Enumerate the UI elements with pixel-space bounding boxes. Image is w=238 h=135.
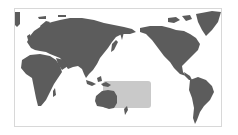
- indonesia: [86, 80, 96, 86]
- left-edge-land: [15, 12, 20, 27]
- australia: [95, 90, 117, 109]
- greenland: [196, 11, 221, 36]
- north-america: [140, 26, 200, 76]
- world-map: [0, 0, 238, 135]
- africa: [21, 54, 62, 106]
- south-america: [189, 77, 214, 124]
